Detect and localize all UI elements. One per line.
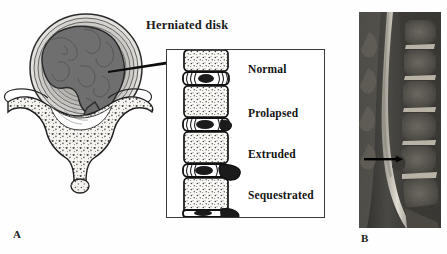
stage-label-sequestrated: Sequestrated: [248, 189, 314, 201]
disk-sequestrated: [183, 209, 239, 217]
leader-line: [108, 60, 170, 74]
stage-label-extruded: Extruded: [248, 148, 296, 160]
panel-label-a: A: [13, 228, 21, 240]
axial-vertebra-illustration: [2, 6, 174, 196]
figure-root: Herniated disk: [0, 0, 447, 254]
stage-label-normal: Normal: [248, 63, 287, 75]
stage-label-prolapsed: Prolapsed: [248, 107, 298, 119]
panel-label-b: B: [361, 232, 368, 244]
mri-sagittal-lumbar-spine: [359, 12, 441, 228]
disk-extruded: [183, 164, 240, 180]
disk-normal: [183, 72, 229, 85]
disk-prolapsed: [183, 118, 232, 131]
